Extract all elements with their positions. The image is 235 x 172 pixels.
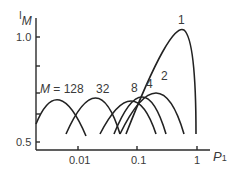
- chart-canvas: [0, 0, 235, 172]
- curve-m2: [120, 93, 184, 134]
- series-label-m128: M = 128: [40, 83, 84, 95]
- x-tick-label-1: 1: [194, 155, 200, 166]
- y-tick-label-1.0: 1.0: [16, 32, 31, 43]
- curve-m32: [66, 98, 120, 134]
- series-label-m1: 1: [178, 14, 185, 26]
- x-tick-label-0.01: 0.01: [69, 155, 90, 166]
- curve-m128: [36, 100, 86, 136]
- series-label-m4: 4: [146, 78, 153, 90]
- x-tick-label-0.1: 0.1: [131, 155, 146, 166]
- series-label-m32: 32: [96, 83, 109, 95]
- x-axis-label-main: P: [213, 149, 222, 164]
- series-label-m8: 8: [131, 82, 138, 94]
- m128-value: = 128: [50, 82, 84, 96]
- y-axis-label-sub: M: [22, 14, 32, 28]
- y-tick-label-0.5: 0.5: [16, 137, 31, 148]
- y-axis-label: IM: [19, 11, 32, 23]
- series-label-m2: 2: [161, 70, 168, 82]
- x-axis-label: P1: [213, 150, 227, 163]
- x-axis-label-sub: 1: [222, 153, 227, 163]
- m-symbol: M: [40, 82, 50, 96]
